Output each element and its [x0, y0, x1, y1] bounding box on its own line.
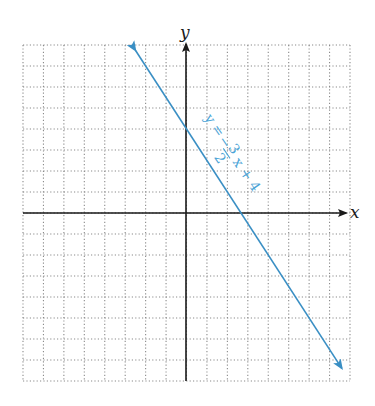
svg-text:2: 2 [211, 150, 229, 166]
coordinate-plane: x y y = − 3 2 x + 4 [0, 0, 375, 406]
equation-label: y = − 3 2 x + 4 [189, 108, 267, 202]
y-axis-label: y [179, 22, 190, 42]
svg-text:x + 4: x + 4 [230, 154, 264, 194]
x-axis-label: x [350, 202, 360, 222]
